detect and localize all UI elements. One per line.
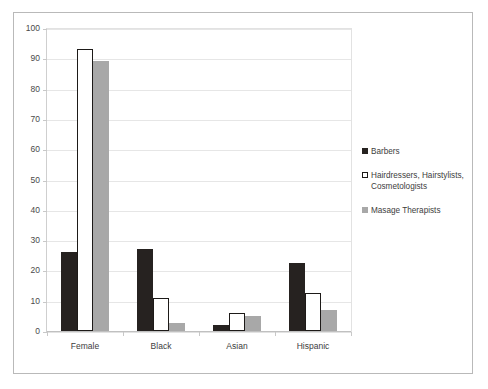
y-axis-tick-mark [43,150,47,151]
x-axis-line [47,331,351,332]
y-axis-tick-mark [43,271,47,272]
y-axis-tick-label: 40 [14,206,40,215]
y-axis-tick-mark [43,90,47,91]
x-axis-tick-mark [199,332,200,336]
bar[interactable] [229,313,245,331]
y-axis-tick-label: 50 [14,176,40,185]
legend-item[interactable]: Hairdressers, Hairstylists, Cosmetologis… [362,170,467,192]
y-axis-tick-label: 80 [14,85,40,94]
legend-swatch-icon [362,148,368,154]
x-axis-tick-mark [47,332,48,336]
x-axis-category-label: Asian [213,341,261,351]
bar[interactable] [289,263,305,331]
bar[interactable] [169,323,185,331]
bar-group: Female [61,27,109,331]
chart-frame: 1009080706050403020100 FemaleBlackAsianH… [13,12,473,374]
legend-item[interactable]: Masage Therapists [362,205,467,216]
legend-swatch-icon [362,207,368,213]
bar[interactable] [61,252,77,331]
y-axis-tick-label: 0 [14,327,40,336]
bar-group: Hispanic [289,27,337,331]
y-axis-tick-label: 70 [14,115,40,124]
y-axis-tick-mark [43,29,47,30]
y-axis-tick-label: 100 [14,24,40,33]
y-axis-tick-mark [43,211,47,212]
bar[interactable] [321,310,337,331]
y-axis-tick-label: 10 [14,297,40,306]
legend-item-label: Barbers [371,146,400,157]
y-axis-tick-mark [43,302,47,303]
x-axis-category-label: Hispanic [289,341,337,351]
y-axis-tick-mark [43,59,47,60]
x-axis-category-label: Black [137,341,185,351]
y-axis-tick-label: 60 [14,145,40,154]
legend-item-label: Hairdressers, Hairstylists, Cosmetologis… [371,170,467,192]
bar[interactable] [137,249,153,331]
x-axis-tick-mark [275,332,276,336]
bar-group: Black [137,27,185,331]
bar-group: Asian [213,27,261,331]
y-axis-tick-label: 90 [14,54,40,63]
x-axis-tick-mark [351,332,352,336]
legend-item-label: Masage Therapists [371,205,440,216]
bar[interactable] [305,293,321,331]
x-axis-tick-mark [123,332,124,336]
y-axis-tick-label: 20 [14,266,40,275]
legend-swatch-icon [362,172,368,178]
chart-legend: BarbersHairdressers, Hairstylists, Cosme… [362,146,467,229]
y-axis-tick-mark [43,120,47,121]
y-axis-tick-mark [43,181,47,182]
legend-item[interactable]: Barbers [362,146,467,157]
plot-area: 1009080706050403020100 FemaleBlackAsianH… [46,28,352,333]
bar[interactable] [93,61,109,331]
y-axis-tick-label: 30 [14,236,40,245]
y-axis-tick-mark [43,241,47,242]
bar[interactable] [77,49,93,331]
bar[interactable] [245,316,261,331]
x-axis-category-label: Female [61,341,109,351]
bar[interactable] [153,298,169,331]
